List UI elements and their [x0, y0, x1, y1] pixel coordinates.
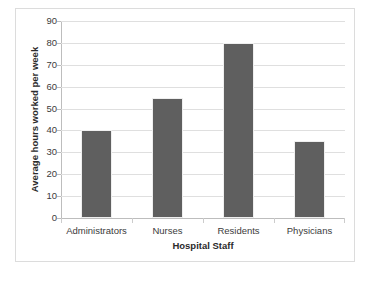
y-axis-tick-labels: 0102030405060708090 [12, 0, 57, 281]
x-axis-tick-mark [203, 218, 204, 223]
y-axis-tick-label: 90 [17, 16, 57, 26]
x-axis-tick-mark [61, 218, 62, 223]
y-axis-tick-mark [57, 152, 61, 153]
x-axis-tick-mark [132, 218, 133, 223]
y-axis-tick-label: 20 [17, 169, 57, 179]
x-axis-tick-label: Nurses [132, 225, 203, 237]
y-axis-tick-mark [57, 21, 61, 22]
x-axis-tick-label: Administrators [61, 225, 132, 237]
y-axis-tick-label: 10 [17, 191, 57, 201]
x-axis-tick-mark [344, 218, 345, 223]
plot-area [61, 21, 345, 218]
y-axis-tick-label: 70 [17, 60, 57, 70]
y-axis-tick-label: 80 [17, 38, 57, 48]
gridline [61, 43, 345, 44]
gridline [61, 65, 345, 66]
x-axis-tick-marks [61, 218, 345, 223]
y-axis-tick-label: 50 [17, 104, 57, 114]
x-axis-tick-label: Physicians [274, 225, 345, 237]
y-axis-tick-mark [57, 196, 61, 197]
y-axis-tick-label: 40 [17, 125, 57, 135]
y-axis-tick-mark [57, 43, 61, 44]
y-axis-tick-mark [57, 174, 61, 175]
bar [81, 130, 112, 218]
x-axis-title: Hospital Staff [61, 240, 345, 252]
bar-chart: Average hours worked per week 0102030405… [0, 0, 366, 281]
bar [294, 141, 325, 218]
x-axis-tick-label: Residents [203, 225, 274, 237]
y-axis-tick-mark [57, 218, 61, 219]
y-axis-tick-label: 0 [17, 213, 57, 223]
y-axis-tick-mark [57, 130, 61, 131]
y-axis-tick-label: 30 [17, 147, 57, 157]
y-axis-tick-label: 60 [17, 82, 57, 92]
y-axis-tick-mark [57, 87, 61, 88]
x-axis-tick-mark [274, 218, 275, 223]
bar [223, 43, 254, 218]
y-axis-tick-mark [57, 109, 61, 110]
gridline [61, 87, 345, 88]
y-axis-tick-mark [57, 65, 61, 66]
bar [152, 98, 183, 218]
gridline [61, 21, 345, 22]
x-axis-tick-labels: AdministratorsNursesResidentsPhysicians [61, 225, 345, 239]
gridline [61, 109, 345, 110]
